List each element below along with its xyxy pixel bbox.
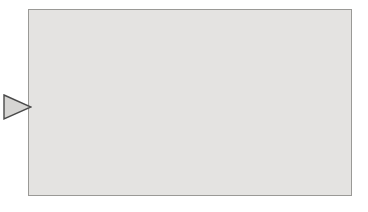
chart-plot [0, 0, 368, 212]
